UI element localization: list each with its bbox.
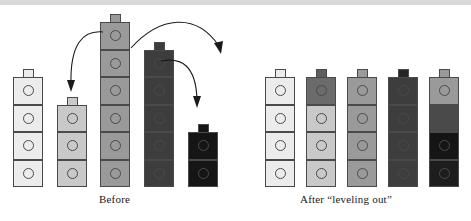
cell-knob-icon	[154, 58, 165, 69]
top-band	[0, 0, 471, 5]
cell-knob-icon	[23, 140, 34, 151]
stack-cell	[388, 77, 418, 105]
stack-cell	[388, 105, 418, 133]
cell-knob-icon	[23, 113, 34, 124]
caption-before: Before	[99, 193, 130, 205]
stack-cell	[265, 132, 295, 160]
before-stack-3	[100, 14, 130, 187]
stack-cell	[188, 132, 218, 160]
cell-knob-icon	[67, 113, 78, 124]
cell-knob-icon	[357, 140, 368, 151]
before-stack-1	[13, 69, 43, 187]
cell-knob-icon	[110, 140, 121, 151]
stack-cell	[265, 105, 295, 133]
stack-cell	[13, 105, 43, 133]
cell-knob-icon	[439, 113, 450, 124]
stack-cell	[57, 132, 87, 160]
stack-cell	[265, 160, 295, 188]
stack-cell	[144, 77, 174, 105]
cell-knob-icon	[398, 113, 409, 124]
before-stack-2	[57, 97, 87, 188]
stack-cell	[306, 105, 336, 133]
stack-cell	[100, 105, 130, 133]
cell-knob-icon	[154, 168, 165, 179]
stack-cell	[429, 160, 459, 188]
after-stack-1	[265, 69, 295, 187]
cell-knob-icon	[198, 168, 209, 179]
cell-knob-icon	[154, 85, 165, 96]
after-stack-2	[306, 69, 336, 187]
cell-knob-icon	[439, 85, 450, 96]
cell-knob-icon	[198, 140, 209, 151]
cell-knob-icon	[439, 168, 450, 179]
stack-cell	[429, 105, 459, 133]
after-stack-4	[388, 69, 418, 187]
stack-cell	[100, 50, 130, 78]
stack-cell	[57, 160, 87, 188]
cell-knob-icon	[439, 140, 450, 151]
stack-cell	[100, 77, 130, 105]
cell-knob-icon	[154, 140, 165, 151]
stack-cell	[388, 132, 418, 160]
cell-knob-icon	[357, 85, 368, 96]
cell-knob-icon	[67, 140, 78, 151]
stack-cell	[57, 105, 87, 133]
stack-cell	[144, 132, 174, 160]
cell-knob-icon	[357, 113, 368, 124]
stack-cell	[144, 160, 174, 188]
cell-knob-icon	[316, 85, 327, 96]
cell-knob-icon	[275, 85, 286, 96]
cell-knob-icon	[23, 168, 34, 179]
stack-cell	[347, 77, 377, 105]
stack-cell	[306, 160, 336, 188]
stack-cell	[144, 50, 174, 78]
stack-cell	[347, 160, 377, 188]
cell-knob-icon	[23, 85, 34, 96]
stack-cell	[429, 132, 459, 160]
cell-knob-icon	[110, 30, 121, 41]
arrow-head-icon	[67, 80, 75, 92]
stack-cell	[13, 132, 43, 160]
leveling-out-diagram: Before After “leveling out”	[0, 0, 471, 221]
cell-knob-icon	[398, 168, 409, 179]
arrow-head-icon	[193, 96, 201, 108]
cell-knob-icon	[154, 113, 165, 124]
stack-cell	[347, 105, 377, 133]
stack-cell	[100, 160, 130, 188]
stack-cell	[13, 160, 43, 188]
stack-cell	[144, 105, 174, 133]
cell-knob-icon	[275, 168, 286, 179]
cell-knob-icon	[110, 168, 121, 179]
before-stack-4	[144, 42, 174, 188]
cell-knob-icon	[316, 140, 327, 151]
stack-cell	[388, 160, 418, 188]
caption-after: After “leveling out”	[300, 193, 392, 205]
after-stack-5	[429, 69, 459, 187]
cell-knob-icon	[316, 113, 327, 124]
stack-cell	[100, 132, 130, 160]
cell-knob-icon	[67, 168, 78, 179]
stack-cell	[429, 77, 459, 105]
cell-knob-icon	[398, 140, 409, 151]
cell-knob-icon	[316, 168, 327, 179]
cell-knob-icon	[357, 168, 368, 179]
stack-cell	[13, 77, 43, 105]
cell-knob-icon	[110, 85, 121, 96]
cell-knob-icon	[398, 85, 409, 96]
stack-cell	[306, 77, 336, 105]
before-stack-5	[188, 124, 218, 187]
stack-cell	[347, 132, 377, 160]
cell-knob-icon	[275, 113, 286, 124]
cell-knob-icon	[110, 58, 121, 69]
stack-cell	[188, 160, 218, 188]
arrow-stack3-to-stack2	[67, 32, 103, 92]
cell-knob-icon	[275, 140, 286, 151]
stack-cell	[100, 22, 130, 50]
arrow-head-icon	[214, 41, 223, 54]
after-stack-3	[347, 69, 377, 187]
stack-cell	[265, 77, 295, 105]
stack-cell	[306, 132, 336, 160]
cell-knob-icon	[110, 113, 121, 124]
